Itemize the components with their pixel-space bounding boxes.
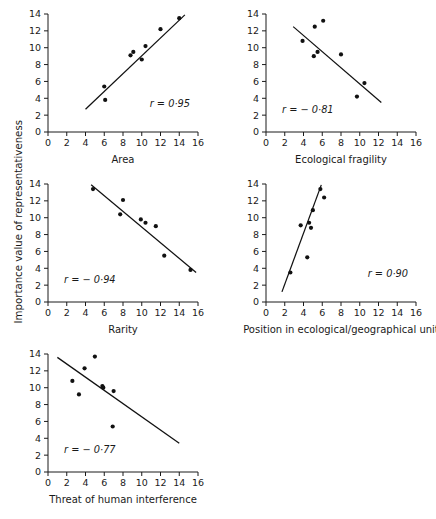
y-tick-label: 12 [247, 195, 259, 206]
data-point [311, 208, 315, 212]
shared-y-axis-label: Importance value of representativeness [0, 120, 16, 390]
x-axis-label: Threat of human interference [48, 494, 197, 505]
x-tick-label: 12 [372, 137, 384, 148]
x-tick-label: 4 [82, 307, 88, 318]
y-tick-label: 4 [35, 433, 41, 444]
x-tick-label: 16 [192, 137, 204, 148]
y-tick-label: 12 [29, 365, 41, 376]
x-tick-label: 8 [120, 307, 126, 318]
data-point [305, 255, 309, 259]
regression-line [282, 185, 321, 292]
data-point [322, 195, 326, 199]
y-tick-label: 14 [29, 8, 41, 19]
x-tick-label: 16 [410, 307, 422, 318]
y-tick-label: 6 [253, 76, 259, 87]
y-tick-label: 10 [29, 212, 41, 223]
regression-line [293, 27, 381, 103]
y-tick-label: 12 [29, 195, 41, 206]
x-tick-label: 2 [64, 307, 70, 318]
scatter-panel-position-unit: 024681012141602468101214r = 0·90Position… [240, 176, 432, 338]
x-tick-label: 12 [154, 307, 166, 318]
data-point [70, 379, 74, 383]
x-tick-label: 14 [173, 477, 185, 488]
data-point [339, 52, 343, 56]
x-axis-label: Ecological fragility [295, 154, 387, 165]
scatter-plot-0: 024681012141602468101214r = 0·95Area [22, 6, 214, 168]
y-tick-label: 14 [247, 8, 259, 19]
y-tick-label: 8 [253, 229, 259, 240]
x-tick-label: 0 [263, 307, 269, 318]
y-tick-label: 4 [35, 93, 41, 104]
x-tick-label: 4 [300, 307, 306, 318]
y-tick-label: 6 [35, 76, 41, 87]
x-tick-label: 8 [120, 477, 126, 488]
scatter-panel-rarity: 024681012141602468101214r = − 0·94Rarity [22, 176, 214, 338]
data-point [300, 39, 304, 43]
x-tick-label: 16 [192, 307, 204, 318]
x-tick-label: 4 [82, 477, 88, 488]
x-tick-label: 0 [263, 137, 269, 148]
x-tick-label: 10 [136, 307, 148, 318]
data-point [312, 54, 316, 58]
x-tick-label: 0 [45, 137, 51, 148]
x-tick-label: 12 [154, 477, 166, 488]
regression-line [91, 185, 196, 273]
x-tick-label: 8 [120, 137, 126, 148]
y-tick-label: 2 [253, 280, 259, 291]
y-tick-label: 12 [29, 25, 41, 36]
y-tick-label: 8 [35, 229, 41, 240]
regression-line [86, 15, 185, 109]
data-point [162, 254, 166, 258]
scatter-panel-area: 024681012141602468101214r = 0·95Area [22, 6, 214, 168]
x-tick-label: 2 [64, 137, 70, 148]
x-tick-label: 8 [338, 307, 344, 318]
scatter-plot-4: 024681012141602468101214r = − 0·77Threat… [22, 346, 214, 508]
scatter-plot-1: 024681012141602468101214r = − 0·81Ecolog… [240, 6, 432, 168]
y-tick-label: 6 [35, 416, 41, 427]
data-point [362, 81, 366, 85]
data-point [309, 226, 313, 230]
y-tick-label: 8 [35, 399, 41, 410]
data-point [103, 98, 107, 102]
data-point [112, 389, 116, 393]
x-tick-label: 4 [82, 137, 88, 148]
data-point [121, 198, 125, 202]
y-tick-label: 10 [247, 42, 259, 53]
x-tick-label: 2 [282, 137, 288, 148]
x-tick-label: 10 [354, 307, 366, 318]
data-point [315, 50, 319, 54]
y-tick-label: 4 [253, 263, 259, 274]
data-point [102, 84, 106, 88]
data-point [288, 270, 292, 274]
scatter-plot-3: 024681012141602468101214r = 0·90Position… [240, 176, 432, 338]
data-point [143, 44, 147, 48]
x-axis-label: Rarity [108, 324, 138, 335]
y-tick-label: 12 [247, 25, 259, 36]
correlation-annotation: r = − 0·77 [64, 444, 116, 455]
x-tick-label: 14 [391, 137, 403, 148]
x-tick-label: 6 [101, 137, 107, 148]
correlation-annotation: r = − 0·81 [282, 104, 334, 115]
y-tick-label: 8 [253, 59, 259, 70]
x-tick-label: 14 [391, 307, 403, 318]
scatter-panel-ecological-fragility: 024681012141602468101214r = − 0·81Ecolog… [240, 6, 432, 168]
y-tick-label: 2 [35, 450, 41, 461]
y-tick-label: 0 [253, 296, 259, 307]
x-tick-label: 14 [173, 137, 185, 148]
data-point [188, 268, 192, 272]
y-tick-label: 0 [35, 296, 41, 307]
scatter-plot-2: 024681012141602468101214r = − 0·94Rarity [22, 176, 214, 338]
y-tick-label: 0 [35, 126, 41, 137]
data-point [77, 392, 81, 396]
data-point [318, 187, 322, 191]
y-tick-label: 14 [247, 178, 259, 189]
data-point [93, 354, 97, 358]
y-tick-label: 4 [253, 93, 259, 104]
x-axis-label: Area [111, 154, 134, 165]
data-point [111, 424, 115, 428]
y-tick-label: 2 [35, 280, 41, 291]
data-point [313, 25, 317, 29]
x-tick-label: 2 [282, 307, 288, 318]
y-tick-label: 10 [29, 382, 41, 393]
data-point [177, 16, 181, 20]
